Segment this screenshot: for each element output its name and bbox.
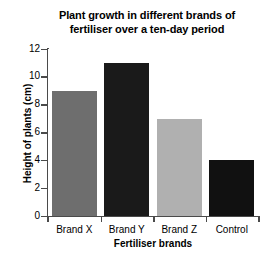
bar-control <box>209 160 254 216</box>
x-tick-mark-2 <box>153 216 155 222</box>
chart-title: Plant growth in different brands of fert… <box>30 8 264 36</box>
bar-brand-z <box>157 119 202 216</box>
x-tick-mark-4 <box>258 216 260 222</box>
y-tick-mark-12 <box>41 49 47 51</box>
y-tick-label-12: 12 <box>0 44 40 54</box>
bar-chart-figure: Plant growth in different brands of fert… <box>0 0 268 259</box>
x-tick-mark-3 <box>206 216 208 222</box>
bar-brand-y <box>104 63 149 216</box>
chart-title-line-1: Plant growth in different brands of <box>30 8 264 22</box>
y-tick-label-10: 10 <box>0 71 40 81</box>
chart-title-line-2: fertiliser over a ten-day period <box>30 22 264 36</box>
y-tick-label-8: 8 <box>0 99 40 109</box>
y-tick-label-4: 4 <box>0 155 40 165</box>
bar-brand-x <box>52 91 97 216</box>
y-tick-mark-4 <box>41 160 47 162</box>
y-tick-mark-8 <box>41 104 47 106</box>
x-tick-label-brand-z: Brand Z <box>153 224 206 235</box>
plot-area <box>48 49 258 216</box>
x-tick-label-brand-y: Brand Y <box>101 224 154 235</box>
x-tick-label-brand-x: Brand X <box>48 224 101 235</box>
y-tick-label-2: 2 <box>0 183 40 193</box>
y-tick-mark-2 <box>41 188 47 190</box>
y-tick-label-6: 6 <box>0 127 40 137</box>
x-tick-mark-1 <box>101 216 103 222</box>
y-tick-mark-6 <box>41 132 47 134</box>
y-tick-label-0: 0 <box>0 211 40 221</box>
x-tick-label-control: Control <box>206 224 259 235</box>
y-tick-mark-10 <box>41 76 47 78</box>
x-tick-mark-0 <box>47 216 49 222</box>
x-axis-title: Fertiliser brands <box>48 238 258 249</box>
